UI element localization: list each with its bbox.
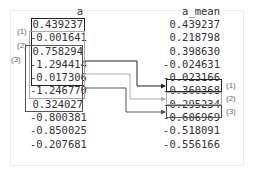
arrow-3 [85, 88, 165, 112]
arrows-layer [0, 0, 254, 174]
